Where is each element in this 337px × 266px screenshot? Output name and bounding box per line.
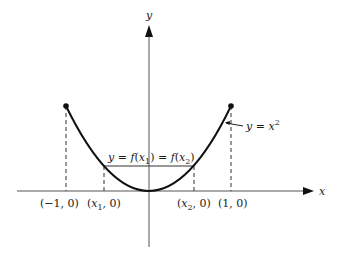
endpoint-right-dot [228,103,234,109]
x-axis-label: x [319,185,326,198]
label-eq2: = [154,151,170,164]
tick-label-neg-one: (−1, 0) [40,197,79,210]
y-axis-label: y [145,9,153,22]
leader-arrow-icon [225,121,230,125]
label-eq1: = [114,151,130,164]
y-axis-arrow-icon [145,25,153,37]
tick-label-x2: (x2, 0) [177,197,211,212]
tick-x2-suffix: , 0) [193,197,211,210]
curve-label: y = x2 [245,118,280,133]
parabola-figure: x y y = x2 y = f(x1) = f(x2) (−1, 0) (x1… [0,0,337,266]
curve-label-text: y = x [245,120,275,133]
endpoint-left-dot [63,103,69,109]
figure-canvas: x y y = x2 y = f(x1) = f(x2) (−1, 0) (x1… [0,0,337,266]
tick-label-one: (1, 0) [218,197,248,210]
x-axis-arrow-icon [303,187,314,195]
curve-label-exponent: 2 [275,118,280,127]
tick-x1-suffix: , 0) [103,197,121,210]
label-close2: ) [190,151,194,164]
tick-label-x1: (x1, 0) [87,197,121,212]
level-line-label: y = f(x1) = f(x2) [107,151,195,166]
